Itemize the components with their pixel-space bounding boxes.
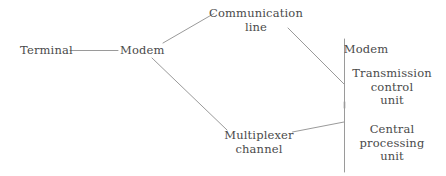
node-modem-left[interactable]: Modem	[120, 44, 165, 58]
node-central-processing-unit-label-3: unit	[360, 150, 425, 164]
node-communication-line-label: Communication	[209, 6, 303, 20]
node-multiplexer-channel[interactable]: Multiplexer channel	[224, 129, 293, 156]
connector-communication-line-to-bracket	[288, 28, 344, 84]
node-transmission-control-unit-label: Transmission	[352, 66, 432, 80]
connector-modem-to-multiplexer-channel	[152, 58, 227, 130]
node-multiplexer-channel-label-2: channel	[224, 143, 293, 157]
diagram-canvas: Terminal Modem Communication line Multip…	[0, 0, 446, 176]
node-central-processing-unit-label: Central	[370, 122, 415, 136]
node-terminal-label: Terminal	[20, 43, 73, 57]
node-central-processing-unit[interactable]: Central processing unit	[360, 123, 425, 164]
node-transmission-control-unit-label-2: control	[352, 81, 432, 95]
node-central-processing-unit-label-2: processing	[360, 137, 425, 151]
node-modem-left-label: Modem	[120, 43, 165, 57]
node-transmission-control-unit-label-3: unit	[352, 94, 432, 108]
node-communication-line[interactable]: Communication line	[209, 7, 303, 34]
node-multiplexer-channel-label: Multiplexer	[224, 128, 293, 142]
node-modem-right-label: Modem	[344, 42, 389, 56]
node-terminal[interactable]: Terminal	[20, 44, 73, 58]
node-communication-line-label-2: line	[209, 21, 303, 35]
connector-modem-to-communication-line	[163, 14, 214, 44]
node-modem-right[interactable]: Modem	[344, 43, 389, 57]
connector-multiplexer-channel-to-bracket	[293, 122, 345, 132]
node-transmission-control-unit[interactable]: Transmission control unit	[352, 67, 432, 108]
